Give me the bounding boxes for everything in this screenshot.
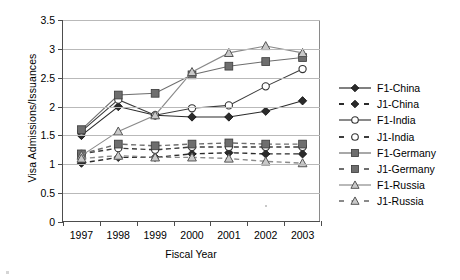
legend-marker-icon (338, 194, 372, 208)
legend-label: F1-China (377, 82, 420, 94)
legend-label: J1-Germany (377, 163, 435, 175)
data-point-marker (225, 62, 233, 70)
data-point-marker (114, 140, 122, 148)
data-point-marker (151, 89, 159, 97)
legend-item-f1-russia[interactable]: F1-Russia (338, 177, 456, 193)
data-point-marker (299, 65, 306, 72)
x-axis-tick-label: 2000 (180, 229, 203, 241)
x-axis-tick-label: 1999 (143, 229, 166, 241)
x-axis-tick-label: 1997 (70, 229, 93, 241)
legend-marker-icon (338, 162, 372, 176)
y-axis-tick (58, 20, 63, 21)
y-axis-tick (58, 107, 63, 108)
x-axis-tick (137, 221, 138, 226)
gridline (63, 107, 320, 108)
data-point-marker (298, 159, 307, 167)
y-axis-tick-label: 3.5 (40, 14, 55, 26)
x-axis-tick (321, 221, 322, 226)
data-point-marker (262, 107, 270, 115)
x-axis-tick-label: 2003 (291, 229, 314, 241)
x-axis-tick (63, 221, 64, 226)
legend-marker-icon (338, 178, 372, 192)
artifact-speck (265, 205, 267, 207)
y-axis-tick (58, 78, 63, 79)
data-point-marker (351, 100, 359, 108)
chart-legend: F1-ChinaJ1-ChinaF1-IndiaJ1-IndiaF1-Germa… (338, 80, 456, 210)
legend-marker-icon (338, 113, 372, 127)
legend-label: J1-China (377, 98, 419, 110)
legend-label: F1-India (377, 114, 416, 126)
data-point-marker (188, 140, 196, 148)
y-axis-tick-label: 1 (49, 158, 55, 170)
x-axis-tick-label: 2002 (254, 229, 277, 241)
data-point-marker (262, 140, 270, 148)
y-axis-tick-label: 0 (49, 216, 55, 228)
artifact-speck-2 (6, 271, 9, 274)
y-axis-tick (58, 193, 63, 194)
data-point-marker (352, 117, 359, 124)
legend-item-j1-india[interactable]: J1-India (338, 129, 456, 145)
data-point-marker (298, 97, 306, 105)
y-axis-tick (58, 49, 63, 50)
legend-marker-icon (338, 146, 372, 160)
x-axis-tick-label: 1998 (107, 229, 130, 241)
legend-label: J1-India (377, 131, 414, 143)
legend-item-f1-germany[interactable]: F1-Germany (338, 145, 456, 161)
y-axis-tick-label: 2.5 (40, 72, 55, 84)
data-point-marker (262, 83, 269, 90)
data-point-marker (351, 165, 358, 172)
legend-item-j1-germany[interactable]: J1-Germany (338, 161, 456, 177)
gridline (63, 193, 320, 194)
data-point-marker (78, 126, 86, 134)
data-point-marker (351, 149, 358, 156)
y-axis-tick (58, 135, 63, 136)
legend-marker-icon (338, 97, 372, 111)
plot-area: 00.511.522.533.5199719981999200020012002… (62, 20, 320, 222)
x-axis-tick (284, 221, 285, 226)
legend-label: F1-Russia (377, 179, 425, 191)
y-axis-tick-label: 1.5 (40, 129, 55, 141)
x-axis-tick (174, 221, 175, 226)
x-axis-tick-label: 2001 (217, 229, 240, 241)
y-axis-title: Visa Admissions/Issuances (26, 18, 38, 218)
data-point-marker (225, 113, 233, 121)
data-point-marker (351, 84, 359, 92)
y-axis-tick (58, 164, 63, 165)
data-series-layer (63, 20, 320, 221)
data-point-marker (299, 140, 307, 148)
y-axis-tick-label: 3 (49, 43, 55, 55)
gridline (63, 20, 320, 21)
legend-item-f1-india[interactable]: F1-India (338, 112, 456, 128)
data-point-marker (114, 127, 123, 135)
legend-label: J1-Russia (377, 195, 424, 207)
gridline (63, 78, 320, 79)
legend-label: F1-Germany (377, 147, 436, 159)
x-axis-tick (210, 221, 211, 226)
legend-marker-icon (338, 81, 372, 95)
y-axis-tick-label: 2 (49, 101, 55, 113)
x-axis-title: Fiscal Year (62, 248, 320, 260)
legend-item-j1-china[interactable]: J1-China (338, 96, 456, 112)
data-point-marker (352, 133, 359, 140)
legend-item-f1-china[interactable]: F1-China (338, 80, 456, 96)
gridline (63, 49, 320, 50)
data-point-marker (225, 139, 233, 147)
y-axis-tick-label: 0.5 (40, 187, 55, 199)
legend-marker-icon (338, 130, 372, 144)
x-axis-tick (100, 221, 101, 226)
data-point-marker (114, 91, 122, 99)
gridline (63, 135, 320, 136)
chart-container: Visa Admissions/Issuances 00.511.522.533… (0, 0, 460, 280)
data-point-marker (262, 58, 270, 66)
data-point-marker (151, 142, 159, 150)
x-axis-tick (247, 221, 248, 226)
legend-item-j1-russia[interactable]: J1-Russia (338, 193, 456, 209)
data-point-marker (114, 151, 123, 159)
gridline (63, 164, 320, 165)
data-point-marker (188, 113, 196, 121)
data-point-marker (225, 102, 232, 109)
